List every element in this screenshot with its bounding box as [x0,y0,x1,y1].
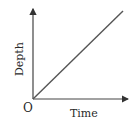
x-axis-label: Time [70,107,98,120]
depth-time-graph: O Time Depth [0,0,136,125]
data-line [33,11,123,99]
y-axis-label: Depth [13,42,26,76]
origin-label: O [23,101,33,115]
graph-canvas: O Time Depth [0,0,136,125]
